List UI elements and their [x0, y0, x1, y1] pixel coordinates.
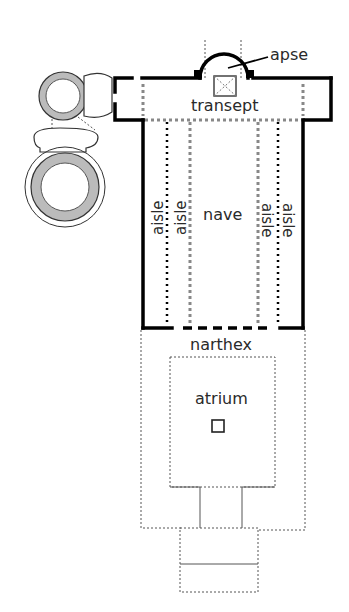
atrium-outline — [141, 330, 305, 592]
apse — [194, 40, 268, 96]
label-transept: transept — [191, 96, 258, 115]
nave-body — [143, 120, 303, 328]
rotunda-upper — [39, 72, 112, 120]
label-apse: apse — [270, 45, 308, 64]
label-aisle-1: aisle — [149, 200, 167, 235]
label-narthex: narthex — [190, 335, 252, 354]
label-nave: nave — [203, 205, 242, 224]
label-atrium: atrium — [195, 389, 248, 408]
label-aisle-4: aisle — [279, 203, 297, 238]
basilica-floor-plan: apse transept nave aisle aisle aisle ais… — [0, 0, 349, 612]
rotunda-lower — [25, 117, 105, 227]
label-aisle-3: aisle — [258, 203, 276, 238]
label-aisle-2: aisle — [172, 200, 190, 235]
